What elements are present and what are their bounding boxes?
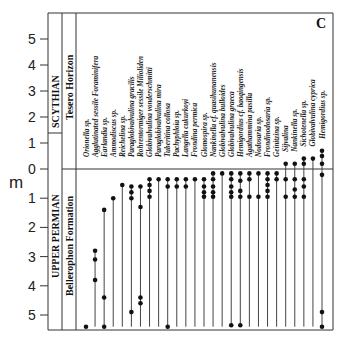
y-tick-label: 3: [28, 249, 36, 265]
occurrence-dot: [138, 184, 143, 189]
taxon-label: Agglutinated sessile Foraminifera: [92, 56, 100, 158]
occurrence-dot: [229, 184, 234, 189]
taxon-label: Nankinella cf. quasihunanensis: [210, 62, 218, 158]
occurrence-dot: [265, 177, 270, 182]
occurrence-dot: [247, 177, 252, 182]
taxon-range: Tuberitina collosa: [164, 103, 172, 329]
occurrence-dot: [220, 171, 225, 176]
taxon-range: Nankinella cf. quasihunanensis: [210, 62, 218, 326]
occurrence-dot: [229, 190, 234, 195]
y-tick-label: 2: [28, 109, 36, 125]
occurrence-dot: [238, 178, 243, 183]
taxon-range: Agathammina pusilla: [246, 92, 254, 326]
occurrence-dot: [302, 177, 307, 182]
taxon-range: Nodosaria sp.: [255, 116, 263, 327]
occurrence-dot: [211, 184, 216, 189]
taxon-label: Nankinella sp.: [291, 108, 299, 152]
taxon-label: Tuberitina collosa: [164, 103, 172, 157]
occurrence-dot: [120, 183, 125, 188]
unit-label-bellerophon-formation: Bellerophon Formation: [64, 195, 75, 296]
taxon-range: Globivalvulina cyprica: [309, 79, 317, 327]
occurrence-dot: [320, 162, 325, 167]
taxon-range: Reichelina sp.: [119, 115, 127, 327]
taxon-range: Globivalvulina bulloides: [219, 84, 227, 326]
occurrence-dot: [102, 208, 107, 213]
taxon-label: Glomospira sp.: [201, 112, 209, 157]
y-tick-label: 5: [28, 307, 36, 323]
y-tick-label: 1: [28, 135, 36, 151]
occurrence-dot: [138, 301, 143, 306]
occurrence-dot: [229, 323, 234, 328]
occurrence-dot: [93, 248, 98, 253]
taxon-label: Paraglobivalvulina gracilis: [128, 76, 136, 157]
taxa-ranges: Orionella sp.Agglutinated sessile Forami…: [83, 56, 327, 329]
taxon-label: Agathammina pusilla: [246, 92, 254, 158]
occurrence-dot: [283, 194, 288, 199]
occurrence-dot: [211, 177, 216, 182]
taxon-range: Glomospira sp.: [201, 112, 209, 327]
taxon-range: Paraglobivalvulina mira: [155, 84, 163, 327]
occurrence-dot: [138, 295, 143, 300]
occurrence-dot: [202, 190, 207, 195]
taxon-label: Langella cukurkoyi: [182, 99, 190, 158]
occurrence-dot: [229, 171, 234, 176]
taxon-range: Pachyphloia sp.: [173, 110, 181, 327]
occurrence-dot: [147, 183, 152, 188]
occurrence-dot: [129, 190, 134, 195]
occurrence-dot: [247, 171, 252, 176]
occurrence-dot: [202, 177, 207, 182]
range-chart: 54321012345 m SCYTHIAN Tesero Horizon UP…: [0, 0, 342, 341]
stage-label-upper-permian: UPPER PERMIAN: [50, 194, 61, 278]
taxon-label: Hemigordius sp.: [319, 90, 327, 140]
taxon-label: Ammodiscus sp.: [110, 109, 118, 158]
occurrence-dot: [174, 177, 179, 182]
taxon-label: Globivalvulina bulloides: [219, 84, 227, 157]
occurrence-dot: [147, 177, 152, 182]
unit-label-tesero-horizon: Tesero Horizon: [64, 54, 75, 120]
occurrence-dot: [138, 205, 143, 210]
occurrence-dot: [320, 154, 325, 159]
occurrence-dot: [320, 310, 325, 315]
occurrence-dot: [292, 162, 297, 167]
panel-label: C: [316, 16, 326, 31]
taxon-label: Reichelina sp.: [119, 115, 127, 158]
y-tick-label: 4: [28, 57, 36, 73]
taxon-range: Hemigordius sp.: [319, 90, 327, 329]
taxon-label: Pachyphloia sp.: [173, 110, 181, 157]
occurrence-dot: [265, 194, 270, 199]
taxon-label: Earlandia sp.: [101, 117, 109, 158]
taxon-range: Globivalvulina graeca: [228, 91, 236, 328]
occurrence-dot: [156, 177, 161, 182]
occurrence-dot: [311, 156, 316, 161]
occurrence-dot: [274, 171, 279, 176]
occurrence-dot: [165, 184, 170, 189]
occurrence-dot: [256, 194, 261, 199]
occurrence-dot: [211, 190, 216, 195]
taxon-label: Hemigordius cf. baoqingensis: [237, 68, 245, 158]
taxon-label: Paraglobivalvulina mira: [155, 84, 163, 157]
occurrence-dot: [292, 177, 297, 182]
taxon-range: Nankinella sp.: [291, 108, 299, 326]
occurrence-dot: [111, 196, 116, 201]
taxon-label: Frondinodosaria sp.: [264, 96, 272, 157]
occurrence-dot: [320, 173, 325, 178]
occurrence-dot: [302, 162, 307, 167]
y-axis-unit: m: [9, 173, 23, 192]
occurrence-dot: [265, 183, 270, 188]
y-tick-label: 4: [28, 278, 36, 294]
occurrence-dot: [274, 177, 279, 182]
taxon-range: Earlandia sp.: [101, 117, 109, 329]
taxon-label: Geinitzina sp.: [273, 116, 281, 157]
occurrence-dot: [238, 171, 243, 176]
occurrence-dot: [165, 177, 170, 182]
occurrence-dot: [193, 177, 198, 182]
occurrence-dot: [238, 323, 243, 328]
y-tick-label: 1: [28, 190, 36, 206]
taxon-range: Sichotenella sp.: [300, 100, 308, 327]
taxon-label: Globivalvulina vonderschmitti: [146, 67, 154, 157]
taxon-label: Globivalvulina cyprica: [309, 79, 317, 147]
occurrence-dot: [184, 177, 189, 182]
taxon-label: Sijvalina: [282, 125, 290, 152]
occurrence-dot: [93, 257, 98, 262]
occurrence-dot: [256, 171, 261, 176]
